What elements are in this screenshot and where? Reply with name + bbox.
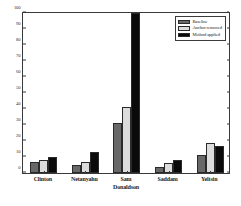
bar-group — [65, 13, 107, 173]
bar — [72, 165, 81, 173]
y-tick-label: 80 — [16, 38, 20, 43]
bar — [197, 155, 206, 173]
legend-swatch — [178, 26, 190, 31]
legend-item: Baseline — [178, 19, 222, 25]
bar — [48, 157, 57, 173]
bar — [113, 123, 122, 173]
y-tick-label: 10 — [16, 150, 20, 155]
legend-label: Anchor removed — [192, 26, 222, 31]
bar — [173, 160, 182, 173]
x-tick-mark — [127, 171, 128, 174]
x-tick-mark — [85, 171, 86, 174]
y-tick-label: 0 — [18, 166, 20, 171]
y-tick-label: 20 — [16, 134, 20, 139]
bar — [90, 152, 99, 173]
x-tick-label: Sam Donaldson — [113, 176, 139, 191]
bar — [206, 143, 215, 173]
legend-label: Baseline — [192, 20, 207, 25]
bar-group — [23, 13, 65, 173]
y-tick-label: 70 — [16, 54, 20, 59]
x-tick-mark — [210, 171, 211, 174]
legend-label: Method applied — [192, 33, 220, 38]
y-tick-label: 40 — [16, 102, 20, 107]
y-tick-label: 100 — [14, 6, 21, 11]
y-tick-label: 50 — [16, 86, 20, 91]
legend: BaselineAnchor removedMethod applied — [175, 16, 226, 41]
bar — [122, 107, 131, 173]
x-tick-mark — [169, 171, 170, 174]
bar — [30, 162, 39, 173]
x-tick-label: Netanyahu — [71, 176, 98, 184]
bar-group — [106, 13, 148, 173]
legend-swatch — [178, 33, 190, 38]
plot-area: 0102030405060708090100 BaselineAnchor re… — [22, 12, 230, 174]
bar — [155, 167, 164, 173]
legend-swatch — [178, 20, 190, 25]
y-tick-label: 60 — [16, 70, 20, 75]
x-tick-label: Saddam — [158, 176, 178, 184]
x-tick-label: Yeltsin — [201, 176, 217, 184]
x-tick-label: Clinton — [34, 176, 52, 184]
bar — [131, 13, 140, 173]
bar-chart-figure: 0102030405060708090100 BaselineAnchor re… — [0, 0, 241, 206]
legend-item: Method applied — [178, 32, 222, 38]
x-tick-mark — [44, 171, 45, 174]
bar — [215, 146, 224, 173]
legend-item: Anchor removed — [178, 26, 222, 32]
y-tick-label: 90 — [16, 22, 20, 27]
y-tick-label: 30 — [16, 118, 20, 123]
